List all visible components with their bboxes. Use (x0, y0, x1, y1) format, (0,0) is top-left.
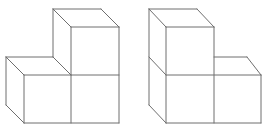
cube-edge (6, 57, 24, 75)
cube-diagram (0, 0, 271, 130)
cube-edge (53, 9, 71, 27)
right-cube-arrangement (149, 9, 261, 123)
left-cube-arrangement (6, 9, 119, 123)
cube-edge (6, 105, 24, 123)
cube-edge (149, 105, 166, 123)
cube-edge (247, 57, 261, 75)
cube-edge (101, 9, 119, 27)
cube-edge (149, 9, 166, 27)
cube-edge (149, 57, 166, 75)
cube-edge (197, 9, 214, 27)
cube-edge (53, 57, 71, 75)
